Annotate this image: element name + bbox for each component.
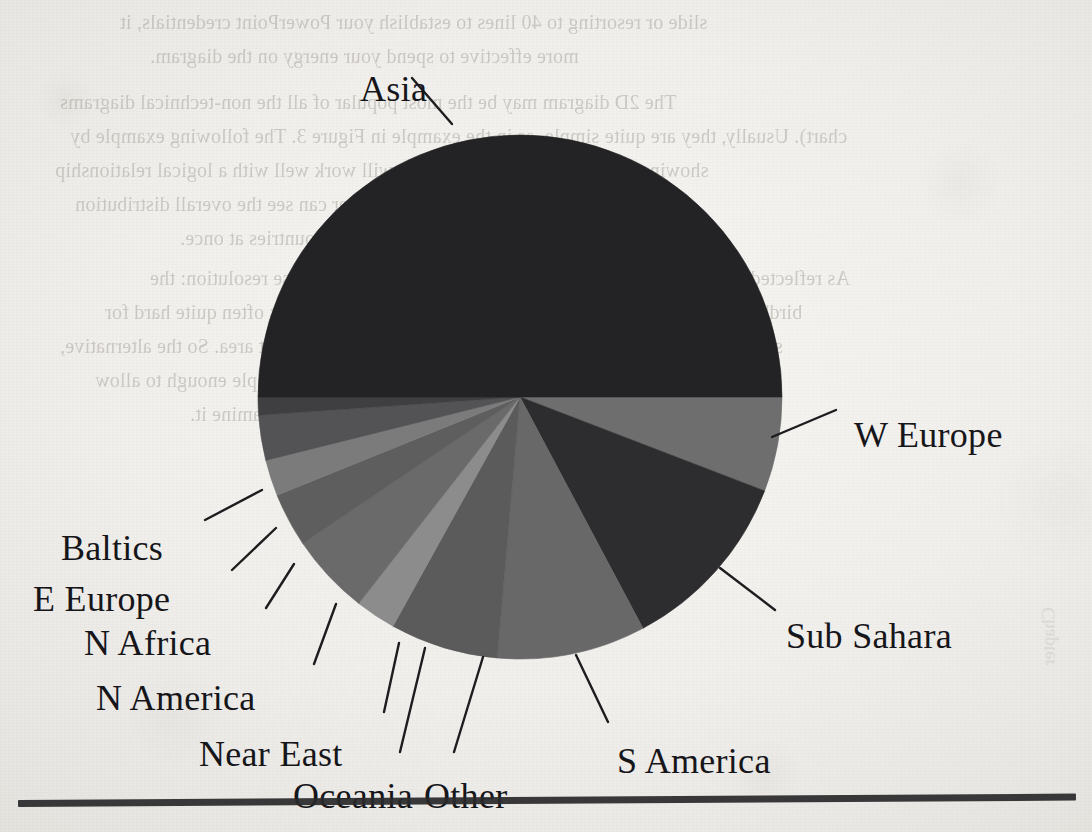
- pie-label-e-europe: E Europe: [33, 578, 170, 620]
- pie-label-s-america: S America: [617, 740, 771, 782]
- leader-line-n-africa: [266, 564, 294, 608]
- leader-line-sub-sahara: [720, 568, 775, 610]
- pie-slices: W Europe — 5.8%Sub Sahara — 11.4%S Ameri…: [258, 135, 782, 659]
- pie-label-other: Other: [424, 775, 507, 817]
- leader-line-baltics: [205, 490, 262, 520]
- leader-line-e-europe: [232, 528, 276, 570]
- pie-slice-asia[interactable]: Asia — 50%: [258, 135, 782, 397]
- leader-line-other: [454, 657, 483, 752]
- pie-label-baltics: Baltics: [61, 527, 163, 569]
- pie-label-oceania: Oceania: [293, 775, 413, 817]
- pie-label-sub-sahara: Sub Sahara: [786, 615, 952, 657]
- pie-label-n-africa: N Africa: [84, 622, 211, 664]
- pie-label-w-europe: W Europe: [854, 414, 1003, 456]
- pie-label-asia: Asia: [360, 68, 427, 110]
- pie-label-near-east: Near East: [199, 733, 343, 775]
- leader-line-n-america: [314, 604, 336, 664]
- leader-line-oceania: [400, 648, 425, 752]
- leader-line-s-america: [576, 655, 608, 722]
- leader-line-near-east: [384, 643, 399, 712]
- pie-label-n-america: N America: [96, 677, 256, 719]
